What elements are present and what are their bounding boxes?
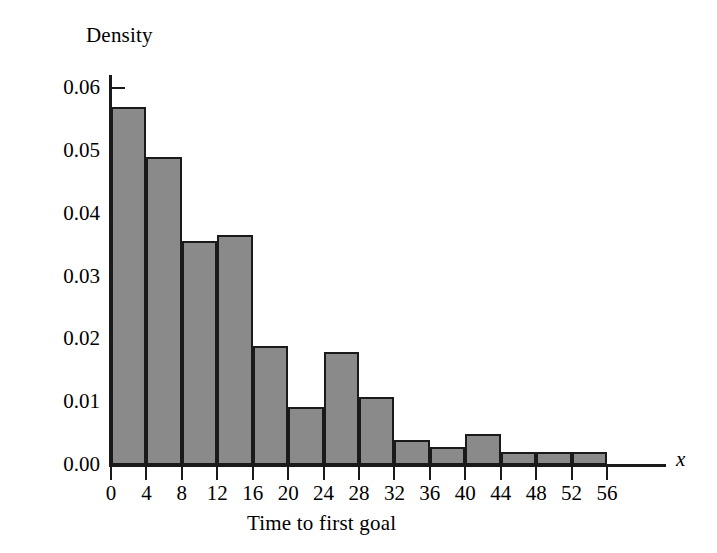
x-tick-mark <box>287 467 289 480</box>
histogram-bar <box>430 447 465 465</box>
y-tick-label: 0.06 <box>28 75 100 100</box>
x-tick-mark <box>252 467 254 480</box>
y-tick-label: 0.04 <box>28 201 100 226</box>
y-tick-label: 0.01 <box>28 389 100 414</box>
x-tick-mark <box>358 467 360 480</box>
x-tick-mark <box>110 467 112 480</box>
x-tick-mark <box>464 467 466 480</box>
histogram-bar <box>536 452 571 465</box>
histogram-bar <box>465 434 500 465</box>
x-variable-symbol: x <box>676 447 685 472</box>
x-tick-mark <box>606 467 608 480</box>
histogram-bar <box>111 107 146 465</box>
histogram-bars <box>111 80 607 465</box>
x-tick-mark <box>323 467 325 480</box>
x-tick-mark <box>393 467 395 480</box>
x-tick-mark <box>571 467 573 480</box>
y-tick-label: 0.03 <box>28 264 100 289</box>
histogram-bar <box>572 452 607 465</box>
histogram-bar <box>359 397 394 465</box>
x-tick-mark <box>500 467 502 480</box>
y-axis-title: Density <box>86 23 153 48</box>
histogram-bar <box>253 346 288 465</box>
histogram-bar <box>394 440 429 465</box>
y-tick-label: 0.05 <box>28 138 100 163</box>
y-tick-label: 0.02 <box>28 326 100 351</box>
x-tick-mark <box>535 467 537 480</box>
histogram-bar <box>501 452 536 465</box>
x-axis-title: Time to first goal <box>247 511 396 536</box>
histogram-bar <box>146 157 181 465</box>
histogram-bar <box>324 352 359 465</box>
histogram-bar <box>288 407 323 465</box>
x-tick-label: 56 <box>584 481 630 506</box>
histogram-figure: Density 0.000.010.020.030.040.050.06 048… <box>0 0 717 553</box>
histogram-bar <box>217 235 252 465</box>
x-tick-mark <box>216 467 218 480</box>
x-tick-mark <box>429 467 431 480</box>
y-tick-label: 0.00 <box>28 452 100 477</box>
x-tick-mark <box>145 467 147 480</box>
histogram-bar <box>182 241 217 465</box>
x-tick-mark <box>181 467 183 480</box>
